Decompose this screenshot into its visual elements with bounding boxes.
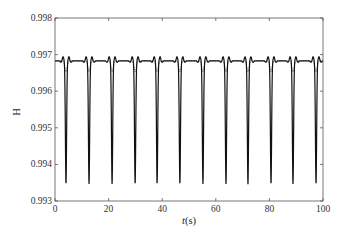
line-chart: 0.9930.9940.9950.9960.9970.998 020406080… <box>0 0 346 240</box>
y-tick-label: 0.996 <box>31 86 53 96</box>
y-tick-label: 0.995 <box>31 123 53 133</box>
plot-area <box>55 57 323 184</box>
x-axis-ticks: 020406080100 <box>53 18 331 214</box>
y-axis-label: H <box>11 108 22 116</box>
series-dashed <box>55 61 323 72</box>
y-tick-label: 0.994 <box>31 159 53 169</box>
x-tick-label: 60 <box>211 204 221 214</box>
x-tick-label: 20 <box>104 204 114 214</box>
series-solid <box>55 57 323 184</box>
x-axis-label: t(s) <box>182 215 197 227</box>
x-tick-label: 80 <box>265 204 275 214</box>
axes-frame <box>55 18 323 201</box>
y-tick-label: 0.993 <box>31 196 53 206</box>
y-axis-ticks: 0.9930.9940.9950.9960.9970.998 <box>31 13 323 206</box>
x-tick-label: 100 <box>316 204 331 214</box>
x-tick-label: 40 <box>157 204 167 214</box>
x-tick-label: 0 <box>53 204 58 214</box>
y-tick-label: 0.998 <box>31 13 53 23</box>
y-tick-label: 0.997 <box>31 50 53 60</box>
